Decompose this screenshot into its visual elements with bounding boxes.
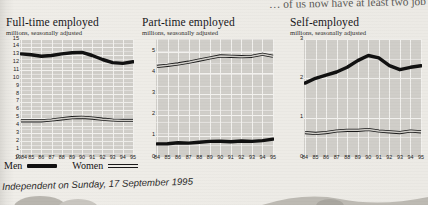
x-axis-tick: 88 [344, 154, 350, 160]
legend-label-women: Women [72, 160, 103, 171]
y-axis-tick: 1 [16, 146, 19, 152]
decorative-blobs [0, 183, 428, 205]
x-axis-tick: 92 [238, 154, 244, 160]
headline-partial-text: … of us now have at least two job [269, 0, 426, 10]
chart-subtitle: millions, seasonally adjusted [290, 29, 422, 37]
plot-area: 1514131211109876543210 [6, 39, 134, 157]
y-axis-tick: 12 [13, 59, 19, 65]
x-axis-tick: 90 [365, 154, 371, 160]
legend-swatch-men-icon [27, 164, 57, 168]
x-axis-tick: 89 [207, 154, 213, 160]
y-axis-tick: 14 [13, 44, 19, 50]
x-axis-tick: 86 [175, 154, 181, 160]
series-line-men [157, 139, 273, 144]
x-axis-tick: 91 [376, 154, 382, 160]
y-axis-tick: 3 [152, 90, 155, 96]
series-layer [304, 39, 422, 157]
x-axis-tick: 95 [418, 154, 424, 160]
chart-title: Self-employed [290, 16, 422, 28]
x-axis-tick: 84 [154, 154, 160, 160]
chart-subtitle: millions, seasonally adjusted [142, 29, 274, 37]
y-axis-tick: 2 [16, 138, 19, 144]
series-layer [20, 39, 134, 157]
y-axis-tick: 8 [16, 91, 19, 97]
y-axis-tick: 9 [16, 83, 19, 89]
x-axis: 848586878889909192939495 [304, 154, 422, 163]
y-axis: 1514131211109876543210 [6, 39, 20, 157]
legend-label-men: Men [4, 160, 22, 171]
y-axis-tick: 7 [16, 99, 19, 105]
series-line-men [21, 52, 133, 63]
chart-self-employed: Self-employed millions, seasonally adjus… [290, 16, 422, 157]
x-axis-tick: 85 [165, 154, 171, 160]
y-axis-tick: 4 [152, 69, 155, 75]
y-axis: 543210 [142, 39, 156, 157]
y-axis-tick: 3 [16, 130, 19, 136]
y-axis-tick: 13 [13, 51, 19, 57]
chart-title: Part-time employed [142, 16, 274, 28]
y-axis: 3210 [290, 39, 304, 157]
plot-canvas [304, 39, 422, 157]
y-axis-tick: 2 [152, 112, 155, 118]
chart-full-time-employed: Full-time employed millions, seasonally … [6, 16, 134, 157]
x-axis-tick: 94 [259, 154, 265, 160]
x-axis-tick: 89 [355, 154, 361, 160]
y-axis-tick: 5 [16, 114, 19, 120]
x-axis-tick: 84 [302, 154, 308, 160]
y-axis-tick: 6 [16, 107, 19, 113]
legend-swatch-women-icon [108, 163, 138, 168]
plot-canvas [20, 39, 134, 157]
y-axis-tick: 15 [13, 36, 19, 42]
y-axis-tick: 5 [152, 48, 155, 54]
x-axis-tick: 93 [397, 154, 403, 160]
x-axis-tick: 95 [270, 154, 276, 160]
y-axis-tick: 1 [152, 133, 155, 139]
x-axis-tick: 91 [228, 154, 234, 160]
y-axis-tick: 11 [13, 67, 19, 73]
y-axis-tick: 10 [13, 75, 19, 81]
series-line-men [305, 55, 421, 83]
x-axis-tick: 87 [186, 154, 192, 160]
x-axis-tick: 88 [196, 154, 202, 160]
series-layer [156, 39, 274, 157]
chart-subtitle: millions, seasonally adjusted [6, 29, 134, 37]
blob-shapes-icon [0, 183, 428, 205]
x-axis-tick: 90 [217, 154, 223, 160]
x-axis-tick: 85 [313, 154, 319, 160]
x-axis-tick: 92 [386, 154, 392, 160]
x-axis-tick: 86 [323, 154, 329, 160]
x-axis: 848586878889909192939495 [156, 154, 274, 163]
chart-part-time-employed: Part-time employed millions, seasonally … [142, 16, 274, 157]
x-axis-tick: 94 [407, 154, 413, 160]
chart-title: Full-time employed [6, 16, 134, 28]
x-axis-tick: 87 [334, 154, 340, 160]
infographic-page: … of us now have at least two job Full-t… [0, 0, 428, 205]
headline-strip: … of us now have at least two job [0, 0, 428, 14]
y-axis-tick: 3 [300, 36, 303, 42]
y-axis-tick: 4 [16, 122, 19, 128]
y-axis-tick: 1 [300, 114, 303, 120]
plot-canvas [156, 39, 274, 157]
x-axis-tick: 93 [249, 154, 255, 160]
plot-area: 543210 [142, 39, 274, 157]
plot-area: 3210 [290, 39, 422, 157]
y-axis-tick: 2 [300, 75, 303, 81]
legend: Men Women [4, 160, 138, 171]
